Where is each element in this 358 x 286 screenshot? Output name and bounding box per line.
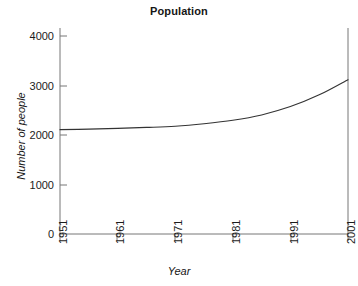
x-tick-marks: [60, 234, 348, 241]
x-axis-label: Year: [0, 265, 358, 277]
population-line-chart: Population 4000 3000 2000 1000 0 1951 19…: [0, 0, 358, 286]
x-tick-label-1971: 1971: [172, 220, 184, 244]
x-tick-label-1981: 1981: [230, 220, 242, 244]
y-tick-marks: [60, 36, 67, 185]
population-curve: [60, 80, 348, 130]
y-tick-label-0: 0: [14, 228, 54, 240]
x-tick-label-1951: 1951: [57, 220, 69, 244]
x-tick-label-1961: 1961: [114, 220, 126, 244]
axes-group: [60, 28, 348, 234]
y-axis-label: Number of people: [15, 76, 27, 196]
x-tick-label-1991: 1991: [288, 220, 300, 244]
y-tick-label-4000: 4000: [14, 30, 54, 42]
x-tick-label-2001: 2001: [345, 220, 357, 244]
